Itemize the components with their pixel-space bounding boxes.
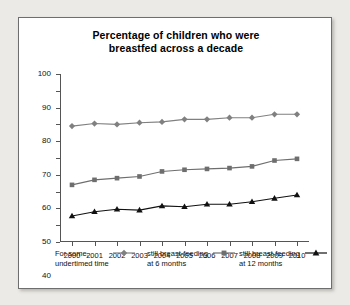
chart-title: Percentage of children who were breastfe… (19, 29, 333, 55)
data-point-marker (222, 251, 227, 256)
data-point-marker (295, 157, 300, 162)
data-point-marker (250, 164, 255, 169)
data-point-marker (205, 167, 210, 172)
data-point-marker (226, 115, 232, 121)
legend-label-line-1: still breast-feeding (147, 249, 208, 259)
legend-item-6-months: still breast-feeding at 6 months (147, 249, 208, 269)
y-tick-label: 90 (42, 104, 51, 112)
legend-marker-square-icon (211, 248, 237, 258)
data-point-marker (294, 111, 300, 117)
data-point-marker (121, 250, 128, 257)
legend-label-line-2: at 12 months (239, 259, 300, 269)
data-point-marker (91, 120, 97, 126)
data-point-marker (114, 121, 120, 127)
data-point-marker (159, 119, 165, 125)
data-point-marker (181, 116, 187, 122)
data-point-marker (115, 176, 120, 181)
y-tick-label: 70 (42, 171, 51, 179)
data-point-marker (271, 111, 277, 117)
legend-label-line-1: For some, (55, 249, 109, 259)
chart-legend: For some, undertimed time still breast-f… (19, 243, 333, 277)
legend-item-12-months: still breast-feeding at 12 months (239, 249, 300, 269)
chart-title-line-2: breastfed across a decade (19, 42, 333, 55)
y-tick-label: 100 (38, 70, 51, 78)
data-point-marker (136, 120, 142, 126)
legend-label-line-1: still breast-feeding (239, 249, 300, 259)
data-point-marker (160, 169, 165, 174)
data-point-marker (249, 115, 255, 121)
chart-card: Percentage of children who were breastfe… (18, 17, 332, 289)
data-point-marker (294, 192, 300, 198)
chart-page: Percentage of children who were breastfe… (0, 0, 350, 305)
data-point-marker (182, 167, 187, 172)
plot-frame: 0102030405060708090100 20002001200220032… (60, 74, 308, 242)
chart-title-line-1: Percentage of children who were (19, 29, 333, 42)
data-point-marker (227, 166, 232, 171)
data-point-marker (272, 158, 277, 163)
data-point-marker (92, 178, 97, 183)
data-point-marker (204, 116, 210, 122)
series-2 (70, 157, 300, 188)
series-3 (69, 192, 300, 219)
series-1 (69, 111, 300, 129)
data-point-marker (137, 174, 142, 179)
plot-area: 0102030405060708090100 20002001200220032… (60, 74, 308, 242)
legend-label-line-2: at 6 months (147, 259, 208, 269)
legend-label-line-2: undertimed time (55, 259, 109, 269)
y-tick-label: 80 (42, 137, 51, 145)
legend-marker-triangle-icon (303, 248, 329, 258)
data-point-marker (70, 183, 75, 188)
legend-marker-diamond-icon (111, 248, 137, 258)
legend-item-undertimed: For some, undertimed time (55, 249, 109, 269)
y-tick-label: 60 (42, 204, 51, 212)
data-point-marker (69, 123, 75, 129)
series-plot (60, 74, 309, 242)
